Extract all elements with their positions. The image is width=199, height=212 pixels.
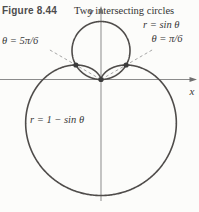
intersection-point xyxy=(98,77,103,82)
angle-label-pi-6: θ = π/6 xyxy=(152,33,184,44)
x-axis-label: x xyxy=(189,85,195,97)
y-axis-label: y xyxy=(88,5,94,17)
circle-equation-label: r = sin θ xyxy=(143,19,179,30)
angle-label-5pi-6: θ = 5π/6 xyxy=(2,35,39,46)
y-axis-arrowhead-icon xyxy=(99,6,104,14)
cardioid-equation-label: r = 1 − sin θ xyxy=(30,114,84,125)
x-axis-arrowhead-icon xyxy=(190,77,198,82)
polar-plot: y x r = sin θ θ = 5π/6 θ = π/6 r = 1 − s… xyxy=(0,0,199,212)
intersection-point xyxy=(73,62,78,67)
intersection-point xyxy=(124,62,129,67)
